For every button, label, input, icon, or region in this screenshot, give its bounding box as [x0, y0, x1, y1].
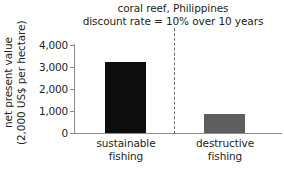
y-tick-label-4000: 4,000 — [39, 39, 68, 51]
y-axis-title-line-1: net present value — [1, 28, 15, 138]
y-tick-label-3000: 3,000 — [39, 61, 68, 73]
chart-title: coral reef, Philippines discount rate = … — [62, 2, 284, 28]
x-category-label-destructive: destructive fishing — [185, 137, 265, 163]
x-axis-line — [70, 133, 282, 134]
plot-area: 0 1,000 2,000 3,000 4,000 sustainable fi… — [74, 40, 284, 134]
x-category-label-destructive-line-2: fishing — [185, 150, 265, 163]
bar-destructive-fishing — [204, 114, 245, 133]
chart-title-line-1: coral reef, Philippines — [62, 2, 284, 15]
x-category-label-sustainable: sustainable fishing — [86, 137, 166, 163]
category-divider — [174, 28, 175, 134]
x-category-label-destructive-line-1: destructive — [185, 137, 265, 150]
x-category-label-sustainable-line-2: fishing — [86, 150, 166, 163]
chart-subtitle-line: discount rate = 10% over 10 years — [62, 15, 284, 28]
y-tick-label-2000: 2,000 — [39, 83, 68, 95]
y-tick-label-1000: 1,000 — [39, 105, 68, 117]
bar-sustainable-fishing — [105, 62, 146, 133]
y-axis-line — [74, 44, 75, 134]
y-axis-title-line-2: (2,000 US$ per hectare) — [14, 28, 28, 138]
chart-figure: coral reef, Philippines discount rate = … — [0, 0, 284, 178]
x-category-label-sustainable-line-1: sustainable — [86, 137, 166, 150]
y-axis-title: net present value (2,000 US$ per hectare… — [0, 28, 30, 138]
y-tick-label-0: 0 — [62, 127, 68, 139]
